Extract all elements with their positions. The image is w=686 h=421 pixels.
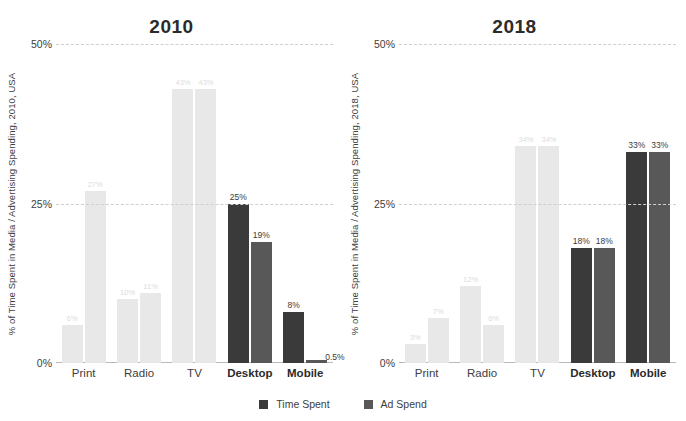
x-axis-category-label: Print [61, 367, 107, 379]
gridline [56, 204, 333, 205]
bar [515, 146, 536, 363]
gridline [399, 204, 676, 205]
bar-value-label: 33% [628, 140, 645, 150]
x-axis-category-label: Desktop [570, 367, 616, 379]
bar [172, 89, 193, 363]
bar-value-label: 12% [463, 275, 478, 284]
bar-value-label: 33% [651, 140, 668, 150]
bar-value-label: 6% [488, 314, 499, 323]
chart-panels: 2010 % of Time Spent in Media / Advertis… [0, 0, 686, 387]
y-axis-label-2018: % of Time Spent in Media / Advertising S… [349, 72, 360, 334]
bar [428, 318, 449, 363]
y-tick-label: 50% [374, 38, 395, 50]
y-axis-label-wrap-2018: % of Time Spent in Media / Advertising S… [343, 44, 365, 363]
plot-row-2010: % of Time Spent in Media / Advertising S… [0, 44, 343, 363]
y-axis-ticks-2018: 0%25%50% [365, 44, 399, 363]
gridline [56, 44, 333, 45]
x-axis-category-label: Radio [459, 367, 505, 379]
bar [649, 152, 670, 363]
x-axis-category-label: Mobile [625, 367, 671, 379]
chart-panel-2010: 2010 % of Time Spent in Media / Advertis… [0, 0, 343, 387]
x-axis-category-label: TV [514, 367, 560, 379]
bar-value-label: 0.5% [325, 352, 344, 362]
x-axis-categories-2010: PrintRadioTVDesktopMobile [56, 363, 333, 387]
bar [460, 286, 481, 363]
bar [538, 146, 559, 363]
plot-row-2018: % of Time Spent in Media / Advertising S… [343, 44, 686, 363]
legend-swatch-icon [364, 400, 373, 409]
bar-value-label: 43% [198, 78, 213, 87]
bar [283, 312, 304, 363]
bar [306, 360, 327, 363]
x-axis-category-label: Radio [116, 367, 162, 379]
bar-value-label: 18% [596, 236, 613, 246]
chart-legend: Time SpentAd Spend [0, 387, 686, 421]
bar-value-label: 18% [573, 236, 590, 246]
legend-item[interactable]: Time Spent [259, 398, 329, 410]
legend-swatch-icon [259, 400, 268, 409]
bar-value-label: 10% [120, 288, 135, 297]
bar [594, 248, 615, 363]
bar-value-label: 34% [518, 135, 533, 144]
bar-value-label: 43% [175, 78, 190, 87]
y-tick-label: 25% [374, 198, 395, 210]
bar [140, 293, 161, 363]
bar-value-label: 25% [230, 192, 247, 202]
y-tick-label: 0% [380, 357, 395, 369]
x-axis-category-label: Mobile [282, 367, 328, 379]
x-axis-category-label: Print [404, 367, 450, 379]
legend-label: Time Spent [276, 398, 329, 410]
y-axis-label-2010: % of Time Spent in Media / Advertising S… [6, 72, 17, 334]
bar [571, 248, 592, 363]
bar [62, 325, 83, 363]
bar-value-label: 19% [253, 230, 270, 240]
x-axis-category-label: TV [171, 367, 217, 379]
bar [405, 344, 426, 363]
gridline [399, 44, 676, 45]
figure: 2010 % of Time Spent in Media / Advertis… [0, 0, 686, 421]
bar-value-label: 34% [541, 135, 556, 144]
legend-item[interactable]: Ad Spend [364, 398, 427, 410]
bar-value-label: 7% [433, 307, 444, 316]
bar-value-label: 27% [88, 180, 103, 189]
chart-panel-2018: 2018 % of Time Spent in Media / Advertis… [343, 0, 686, 387]
y-tick-label: 50% [31, 38, 52, 50]
x-axis-categories-2018: PrintRadioTVDesktopMobile [399, 363, 676, 387]
bar [626, 152, 647, 363]
bar-value-label: 8% [288, 300, 300, 310]
bar [195, 89, 216, 363]
legend-label: Ad Spend [381, 398, 427, 410]
y-tick-label: 25% [31, 198, 52, 210]
bar [228, 204, 249, 364]
bar [85, 191, 106, 363]
bar [251, 242, 272, 363]
y-tick-label: 0% [37, 357, 52, 369]
plot-area-2018: 3%7%12%6%34%34%18%18%33%33% [399, 44, 676, 363]
bar-value-label: 3% [410, 333, 421, 342]
bar [483, 325, 504, 363]
plot-area-2010: 6%27%10%11%43%43%25%19%8%0.5% [56, 44, 333, 363]
y-axis-ticks-2010: 0%25%50% [22, 44, 56, 363]
bar-value-label: 6% [67, 314, 78, 323]
x-axis-category-label: Desktop [227, 367, 273, 379]
y-axis-label-wrap-2010: % of Time Spent in Media / Advertising S… [0, 44, 22, 363]
bar [117, 299, 138, 363]
bar-value-label: 11% [143, 282, 157, 291]
